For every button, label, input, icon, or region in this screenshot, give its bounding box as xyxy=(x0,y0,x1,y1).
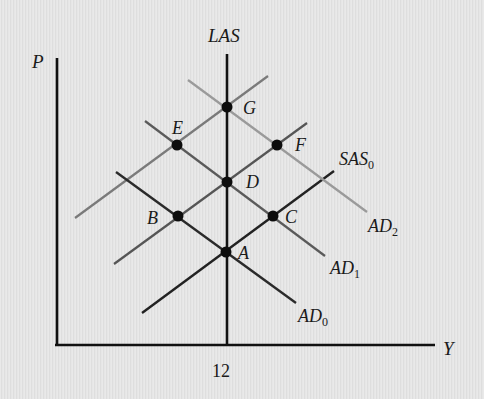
sas2-curve xyxy=(75,76,268,218)
point-e-dot xyxy=(172,140,183,151)
ad2-label: AD2 xyxy=(367,216,398,239)
ad2-label-sub: 2 xyxy=(392,225,398,239)
point-b-label: B xyxy=(147,208,158,228)
curve-labels: LAS SAS0 AD2 AD1 AD0 xyxy=(207,25,398,329)
point-b-dot xyxy=(173,211,184,222)
ad1-label: AD1 xyxy=(329,258,360,281)
ad-as-diagram: P Y 12 LAS SAS0 AD2 AD1 AD0 A B C xyxy=(0,0,484,399)
x-tick-label: 12 xyxy=(212,361,230,381)
point-c-label: C xyxy=(285,207,298,227)
las-label: LAS xyxy=(207,25,240,46)
ad1-label-main: AD xyxy=(329,258,354,278)
point-d-dot xyxy=(222,177,233,188)
point-a-dot xyxy=(221,247,232,258)
sas0-label-main: SAS xyxy=(339,149,368,169)
ad1-label-sub: 1 xyxy=(354,267,360,281)
ad0-label-sub: 0 xyxy=(322,315,328,329)
sas0-label: SAS0 xyxy=(339,149,374,172)
point-a-label: A xyxy=(237,243,250,263)
point-e-label: E xyxy=(171,118,183,138)
point-f-label: F xyxy=(294,135,307,155)
ad0-label: AD0 xyxy=(297,306,328,329)
point-c-dot xyxy=(268,211,279,222)
sas0-label-sub: 0 xyxy=(368,158,374,172)
point-d-label: D xyxy=(245,172,259,192)
point-f-dot xyxy=(272,140,283,151)
point-g-label: G xyxy=(243,98,256,118)
ad0-curve xyxy=(116,172,296,303)
y-axis-label: P xyxy=(31,51,44,72)
sas-curves xyxy=(75,76,334,313)
ad0-label-main: AD xyxy=(297,306,322,326)
point-g-dot xyxy=(222,102,233,113)
ad2-label-main: AD xyxy=(367,216,392,236)
x-axis-label: Y xyxy=(443,338,456,359)
